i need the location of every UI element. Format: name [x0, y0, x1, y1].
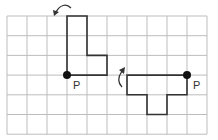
- rotation-arrow-right-head: [119, 67, 125, 74]
- rotation-diagram: PP: [0, 0, 218, 140]
- pivot-label: P: [73, 79, 80, 91]
- rotation-arrow-right: [119, 71, 122, 87]
- shapes: PP: [63, 16, 200, 115]
- pivot-point: [183, 71, 191, 79]
- pivot-label: P: [193, 79, 200, 91]
- pivot-point: [63, 71, 71, 79]
- rotation-arrow-left: [56, 5, 71, 12]
